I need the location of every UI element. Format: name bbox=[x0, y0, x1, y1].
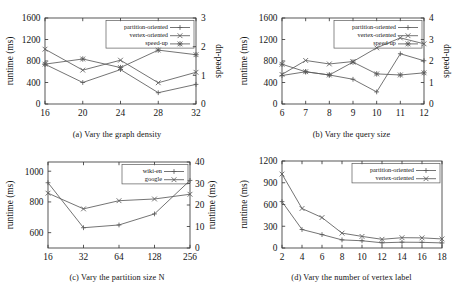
svg-text:14: 14 bbox=[397, 252, 407, 262]
svg-text:vertex-oriented: vertex-oriented bbox=[376, 174, 415, 181]
svg-text:3: 3 bbox=[429, 35, 434, 45]
svg-text:12: 12 bbox=[419, 108, 429, 118]
svg-text:20: 20 bbox=[78, 108, 88, 118]
svg-text:400: 400 bbox=[26, 78, 40, 88]
panel-d: 2468101214161803006009001200runtime (ms)… bbox=[234, 143, 469, 286]
svg-text:16: 16 bbox=[43, 252, 53, 262]
svg-text:30: 30 bbox=[195, 179, 205, 189]
chart-d: 2468101214161803006009001200runtime (ms)… bbox=[234, 143, 469, 286]
figure-grid: 1620242832040080012001600runtime (ms)012… bbox=[0, 0, 469, 286]
svg-text:2: 2 bbox=[429, 56, 434, 66]
svg-text:800: 800 bbox=[263, 56, 277, 66]
svg-text:32: 32 bbox=[191, 108, 201, 118]
svg-text:128: 128 bbox=[147, 252, 161, 262]
svg-text:speed-up: speed-up bbox=[373, 39, 396, 46]
svg-text:runtime (ms): runtime (ms) bbox=[207, 181, 218, 230]
panel-c: 1632641282566008001000runtime (ms)010203… bbox=[0, 143, 234, 286]
caption-a: (a) Vary the graph density bbox=[0, 130, 234, 139]
svg-text:0: 0 bbox=[201, 99, 206, 109]
svg-text:8: 8 bbox=[340, 252, 345, 262]
svg-text:wiki-en: wiki-en bbox=[143, 167, 163, 174]
svg-text:600: 600 bbox=[29, 228, 43, 238]
svg-text:40: 40 bbox=[195, 157, 205, 167]
svg-text:32: 32 bbox=[79, 252, 89, 262]
svg-text:partition-oriented: partition-oriented bbox=[124, 23, 169, 30]
svg-text:24: 24 bbox=[116, 108, 126, 118]
svg-text:1: 1 bbox=[429, 78, 434, 88]
svg-text:google: google bbox=[145, 175, 162, 182]
svg-text:11: 11 bbox=[396, 108, 405, 118]
caption-b: (b) Vary the query size bbox=[234, 130, 469, 139]
svg-text:partition-oriented: partition-oriented bbox=[370, 166, 415, 173]
svg-text:partition-oriented: partition-oriented bbox=[352, 23, 397, 30]
svg-text:runtime (ms): runtime (ms) bbox=[5, 181, 16, 230]
svg-text:9: 9 bbox=[351, 108, 356, 118]
svg-text:6: 6 bbox=[320, 252, 325, 262]
svg-text:runtime (ms): runtime (ms) bbox=[239, 180, 250, 229]
svg-text:8: 8 bbox=[327, 108, 332, 118]
svg-text:1600: 1600 bbox=[22, 13, 41, 23]
svg-text:speed-up: speed-up bbox=[441, 44, 451, 78]
svg-text:vertex-oriented: vertex-oriented bbox=[130, 31, 169, 38]
svg-text:6: 6 bbox=[280, 108, 285, 118]
svg-text:12: 12 bbox=[377, 252, 387, 262]
svg-text:4: 4 bbox=[429, 13, 434, 23]
svg-text:1200: 1200 bbox=[22, 35, 41, 45]
svg-text:0: 0 bbox=[195, 243, 200, 253]
svg-text:0: 0 bbox=[273, 99, 278, 109]
svg-text:900: 900 bbox=[263, 178, 277, 188]
svg-text:4: 4 bbox=[300, 252, 305, 262]
svg-text:10: 10 bbox=[357, 252, 367, 262]
svg-text:7: 7 bbox=[303, 108, 308, 118]
chart-c: 1632641282566008001000runtime (ms)010203… bbox=[0, 143, 234, 286]
svg-text:800: 800 bbox=[29, 197, 43, 207]
svg-text:300: 300 bbox=[263, 222, 277, 232]
svg-text:0: 0 bbox=[429, 99, 434, 109]
chart-a: 1620242832040080012001600runtime (ms)012… bbox=[0, 0, 234, 143]
svg-text:16: 16 bbox=[40, 108, 50, 118]
svg-text:runtime (ms): runtime (ms) bbox=[239, 37, 250, 86]
svg-text:64: 64 bbox=[114, 252, 124, 262]
chart-b: 6789101112040080012001600runtime (ms)012… bbox=[234, 0, 469, 143]
caption-c: (c) Vary the partition size N bbox=[0, 273, 234, 282]
svg-text:0: 0 bbox=[36, 99, 41, 109]
svg-text:vertex-oriented: vertex-oriented bbox=[358, 31, 397, 38]
svg-text:400: 400 bbox=[263, 78, 277, 88]
svg-text:1200: 1200 bbox=[259, 35, 278, 45]
svg-text:20: 20 bbox=[195, 200, 205, 210]
svg-text:2: 2 bbox=[201, 42, 206, 52]
svg-text:18: 18 bbox=[437, 252, 447, 262]
svg-text:1000: 1000 bbox=[25, 167, 44, 177]
svg-text:10: 10 bbox=[195, 222, 205, 232]
caption-d: (d) Vary the number of vertex label bbox=[234, 273, 469, 282]
svg-text:2: 2 bbox=[280, 252, 285, 262]
svg-text:16: 16 bbox=[417, 252, 427, 262]
svg-text:1200: 1200 bbox=[259, 156, 278, 166]
svg-text:speed-up: speed-up bbox=[145, 39, 168, 46]
svg-text:3: 3 bbox=[201, 13, 206, 23]
svg-text:speed-up: speed-up bbox=[213, 44, 223, 78]
svg-text:28: 28 bbox=[154, 108, 164, 118]
panel-a: 1620242832040080012001600runtime (ms)012… bbox=[0, 0, 234, 143]
svg-text:runtime (ms): runtime (ms) bbox=[5, 37, 16, 86]
svg-text:0: 0 bbox=[273, 243, 278, 253]
svg-text:1600: 1600 bbox=[259, 13, 278, 23]
svg-text:600: 600 bbox=[263, 200, 277, 210]
svg-text:1: 1 bbox=[201, 71, 206, 81]
panel-b: 6789101112040080012001600runtime (ms)012… bbox=[234, 0, 469, 143]
svg-text:800: 800 bbox=[26, 56, 40, 66]
svg-text:10: 10 bbox=[372, 108, 382, 118]
